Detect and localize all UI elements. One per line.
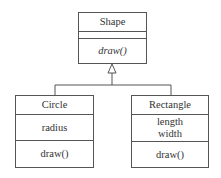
class-rectangle: Rectangle length width draw() xyxy=(131,95,209,168)
operation-draw: draw() xyxy=(132,142,208,167)
attribute-width: width xyxy=(158,128,182,140)
class-circle: Circle radius draw() xyxy=(15,95,94,168)
generalization-arrowhead-icon xyxy=(108,64,116,73)
operation-draw: draw() xyxy=(16,141,93,167)
attributes-compartment: length width xyxy=(132,115,208,141)
class-name: Shape xyxy=(79,13,146,31)
class-shape: Shape draw() xyxy=(78,12,147,64)
operation-draw: draw() xyxy=(79,39,146,63)
attribute-radius: radius xyxy=(16,115,93,140)
class-name: Rectangle xyxy=(132,96,208,114)
attribute-length: length xyxy=(157,116,183,128)
class-name: Circle xyxy=(16,96,93,114)
